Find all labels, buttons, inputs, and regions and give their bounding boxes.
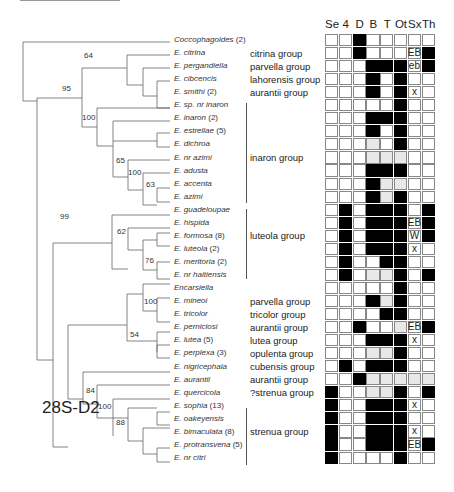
matrix-cell-4 (339, 73, 352, 85)
matrix-cell-t (380, 399, 393, 411)
taxon-label: E. pergandiella (174, 61, 227, 71)
matrix-cell-ot (394, 438, 407, 450)
matrix-cell-d (353, 282, 366, 294)
matrix-cell-sx: x (408, 399, 421, 411)
matrix-cell-th (422, 191, 435, 203)
matrix-cell-th (422, 86, 435, 98)
matrix-cell-sx (408, 295, 421, 307)
matrix-cell-se (325, 373, 338, 385)
matrix-cell-b (366, 347, 379, 359)
matrix-row (325, 151, 435, 164)
matrix-cell-b (366, 86, 379, 98)
matrix-cell-t (380, 360, 393, 372)
taxon-label: E. quercicola (174, 388, 220, 398)
matrix-cell-th (422, 334, 435, 346)
matrix-cell-t (380, 151, 393, 163)
matrix-cell-se (325, 34, 338, 46)
matrix-cell-se (325, 243, 338, 255)
matrix-cell-th (422, 282, 435, 294)
matrix-cell-4 (339, 347, 352, 359)
matrix-row (325, 308, 435, 321)
matrix-cell-d (353, 60, 366, 72)
matrix-cell-4 (339, 217, 352, 229)
matrix-cell-b (366, 99, 379, 111)
matrix-cell-se (325, 47, 338, 59)
taxon-label: E. estrellae (5) (174, 126, 226, 136)
matrix-cell-sx (408, 151, 421, 163)
matrix-cell-se (325, 334, 338, 346)
taxon-label: E. bimaculata (8) (174, 427, 234, 437)
taxon-label: E. sp. nr inaron (174, 100, 228, 110)
matrix-cell-th (422, 112, 435, 124)
matrix-cell-d (353, 347, 366, 359)
taxon-label: E. accenta (174, 179, 212, 189)
matrix-cell-ot (394, 243, 407, 255)
matrix-cell-4 (339, 125, 352, 137)
taxon-name: E. nigricephala (174, 362, 227, 371)
bootstrap-value: 100 (144, 297, 157, 306)
matrix-cell-b (366, 243, 379, 255)
taxon-name: Coccophagoides (174, 35, 234, 44)
matrix-cell-sx (408, 138, 421, 150)
taxon-label: E. inaron (2) (174, 113, 218, 123)
taxon-count: (2) (205, 87, 217, 96)
matrix-cell-se (325, 178, 338, 190)
matrix-cell-sx: x (408, 86, 421, 98)
matrix-cell-ot (394, 99, 407, 111)
matrix-cell-4 (339, 47, 352, 59)
matrix-cell-th (422, 308, 435, 320)
matrix-cell-th (422, 295, 435, 307)
matrix-cell-sx: W (408, 230, 421, 242)
matrix-cell-d (353, 151, 366, 163)
group-label: strenua group (250, 426, 309, 437)
group-label: lahorensis group (250, 74, 320, 85)
matrix-cell-sx (408, 386, 421, 398)
matrix-cell-4 (339, 425, 352, 437)
matrix-cell-sx (408, 125, 421, 137)
taxon-name: E. dichroa (174, 139, 210, 148)
group-label: parvella group (250, 296, 310, 307)
matrix-cell-se (325, 321, 338, 333)
matrix-cell-b (366, 425, 379, 437)
matrix-cell-sx (408, 191, 421, 203)
matrix-row (325, 347, 435, 360)
matrix-cell-th (422, 138, 435, 150)
matrix-cell-d (353, 360, 366, 372)
matrix-cell-b (366, 308, 379, 320)
matrix-cell-th (422, 373, 435, 385)
column-header: Th (422, 18, 436, 30)
matrix-cell-sx: x (408, 425, 421, 437)
matrix-cell-b (366, 269, 379, 281)
matrix-cell-th (422, 425, 435, 437)
matrix-cell-t (380, 178, 393, 190)
matrix-cell-se (325, 191, 338, 203)
matrix-cell-t (380, 282, 393, 294)
matrix-cell-se (325, 230, 338, 242)
matrix-cell-4 (339, 412, 352, 424)
taxon-count: (13) (207, 401, 223, 410)
matrix-cell-4 (339, 308, 352, 320)
matrix-cell-b (366, 399, 379, 411)
matrix-cell-th (422, 321, 435, 333)
matrix-cell-sx: EB (408, 217, 421, 229)
matrix-cell-d (353, 295, 366, 307)
matrix-cell-b (366, 73, 379, 85)
taxon-name: E. guadeloupae (174, 205, 230, 214)
matrix-cell-th (422, 60, 435, 72)
matrix-cell-b (366, 112, 379, 124)
matrix-row: EB (325, 217, 435, 230)
matrix-cell-t (380, 347, 393, 359)
taxon-label: Coccophagoides (2) (174, 35, 246, 45)
matrix-cell-se (325, 438, 338, 450)
matrix-cell-se (325, 269, 338, 281)
matrix-cell-t (380, 438, 393, 450)
group-label: cubensis group (250, 361, 314, 372)
matrix-cell-b (366, 204, 379, 216)
matrix-cell-ot (394, 34, 407, 46)
matrix-cell-b (366, 438, 379, 450)
taxon-name: E. nr citri (174, 453, 206, 462)
matrix-cell-4 (339, 452, 352, 464)
matrix-cell-t (380, 386, 393, 398)
matrix-row: x (325, 243, 435, 256)
matrix-cell-d (353, 164, 366, 176)
